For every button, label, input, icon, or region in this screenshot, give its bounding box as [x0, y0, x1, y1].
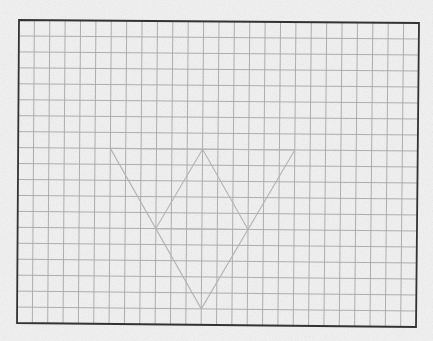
grid-paper-figure — [0, 0, 433, 341]
grid-diagram — [0, 0, 433, 341]
